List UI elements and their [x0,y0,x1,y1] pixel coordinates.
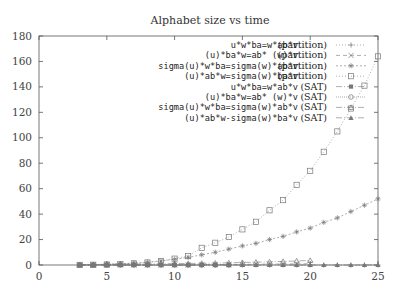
legend-tag: (partition) [278,49,327,60]
x-tick-label: 20 [304,270,317,282]
legend-tag: (partition) [278,70,327,81]
legend-item: sigma(u)*w*ba=sigma(w)*ab*v(SAT) [150,101,366,112]
legend-tag: (partition) [278,60,327,71]
x-tick-label: 10 [168,270,181,282]
legend: u*w*ba=w*ab*v(partition)(u)*ba*w=ab* (w)… [150,39,366,123]
legend-item: (u)*ab*w=sigma(w)*ba*v(partition) [150,70,366,81]
chart-title: Alphabet size vs time [150,14,270,27]
legend-item: (u)*ba*w=ab* (w)*v(SAT) [150,91,366,102]
legend-tag: (SAT) [300,112,327,123]
legend-tag: (partition) [278,39,327,50]
y-tick-label: 40 [19,208,32,220]
y-tick-label: 100 [12,131,32,143]
y-tick-label: 0 [25,259,32,271]
x-tick-label: 15 [236,270,249,282]
legend-label: sigma(u)*w*ba=sigma(w)*ab*v [158,102,298,112]
legend-item: (u)*ba*w=ab* (w)*v(partition) [150,49,366,60]
series-2 [77,261,313,267]
y-tick-label: 120 [12,106,32,118]
legend-tag: (SAT) [300,81,327,92]
legend-label: (u)*ba*w=ab* (w)*v [205,92,298,102]
legend-label: (u)*ab*w-sigma(w)*ba*v [184,113,298,123]
legend-tag: (SAT) [300,91,327,102]
legend-item: sigma(u)*w*ba=sigma(w)*ab*v(partition) [150,60,366,71]
chart: Alphabet size vs time 020406080100120140… [0,0,395,300]
legend-item: (u)*ab*w-sigma(w)*ba*v(SAT) [150,112,366,123]
series-3 [77,196,381,267]
y-tick-label: 20 [19,233,32,245]
y-tick-label: 160 [12,55,32,67]
x-tick-label: 25 [371,270,384,282]
y-tick-label: 180 [12,30,32,42]
legend-item: u*w*ba=w*ab*v(SAT) [150,81,366,92]
legend-item: u*w*ba=w*ab*v(partition) [150,39,366,50]
legend-tag: (SAT) [300,101,327,112]
x-tick-label: 5 [103,270,110,282]
x-tick-label: 0 [36,270,43,282]
y-tick-label: 60 [19,182,32,194]
legend-label: u*w*ba=w*ab*v [231,82,298,92]
y-tick-label: 80 [19,157,32,169]
y-tick-label: 140 [12,80,32,92]
